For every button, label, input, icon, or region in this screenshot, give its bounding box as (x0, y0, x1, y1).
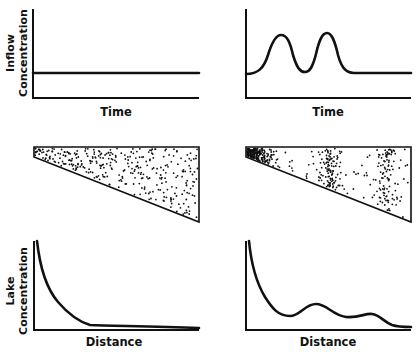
lake-ylabel-line2: Concentration (17, 247, 30, 335)
lake-right-axes (246, 241, 411, 330)
inflow-ylabel-line1: Inflow (4, 34, 17, 72)
inflow-right-xlabel: Time (312, 105, 344, 119)
figure-canvas: Inflow Concentration Time Time Lake Conc… (0, 0, 418, 356)
lake-right-xlabel: Distance (300, 335, 357, 349)
lake-left-axes (34, 241, 199, 330)
inflow-ylabel-line2: Concentration (17, 9, 30, 97)
lake-ylabel-line1: Lake (4, 277, 17, 306)
lake-conc-right-panel: Distance (246, 241, 411, 349)
lake-right-humped-curve (249, 241, 411, 327)
inflow-left-axes (33, 9, 199, 98)
inflow-left-panel: Inflow Concentration Time (4, 9, 199, 119)
inflow-left-xlabel: Time (100, 105, 132, 119)
inflow-right-panel: Time (246, 9, 411, 119)
lake-left-wedge (34, 147, 199, 222)
lake-right-wedge (246, 147, 411, 222)
lake-conc-left-panel: Lake Concentration Distance (4, 241, 199, 349)
lake-left-wedge-outline (34, 147, 199, 222)
inflow-right-axes (246, 9, 411, 98)
lake-left-xlabel: Distance (86, 335, 143, 349)
lake-left-decay-curve (37, 241, 199, 328)
inflow-right-pulse-curve (246, 33, 411, 74)
